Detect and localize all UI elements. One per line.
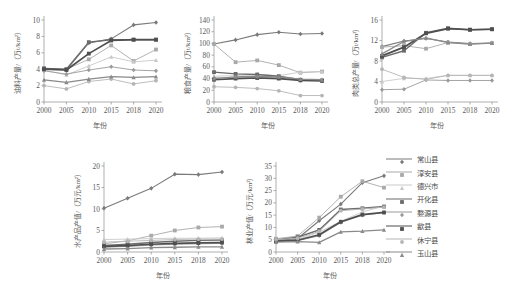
x-tick-label: 2010 [81, 106, 96, 115]
series-point [468, 28, 472, 32]
series-point [109, 39, 113, 43]
series-line [44, 57, 156, 75]
x-tick-label: 2020 [315, 106, 330, 115]
series-point [154, 38, 158, 42]
series-point [339, 220, 343, 224]
x-tick-label: 2015 [271, 106, 286, 115]
series-point [154, 20, 158, 25]
series-line [44, 40, 156, 70]
legend-item: 婺源县 [386, 206, 504, 219]
x-tick-label: 2015 [167, 256, 182, 265]
series-point [154, 69, 158, 74]
series-point [317, 216, 321, 220]
x-tick-label: 2018 [126, 106, 141, 115]
series-point [424, 78, 428, 82]
y-tick-label: 6 [36, 48, 40, 57]
x-tick-label: 2005 [290, 256, 305, 265]
y-tick-label: 16 [371, 16, 379, 25]
series-point [361, 213, 365, 217]
series-line [214, 87, 322, 96]
y-axis-label: 粮食产量/（万t/km²） [183, 28, 192, 94]
series-point [132, 82, 136, 86]
y-tick-label: 10 [93, 205, 101, 214]
series-line [104, 172, 222, 208]
y-tick-label: 4 [36, 65, 40, 74]
series-point [173, 172, 177, 177]
y-tick-label: 20 [203, 86, 211, 95]
series-point [154, 48, 158, 52]
series-point [277, 89, 281, 93]
legend-marker-icon [397, 224, 401, 228]
legend-item: 休宁县 [386, 232, 504, 245]
series-point [220, 170, 224, 175]
series-point [109, 44, 113, 48]
series-line [44, 45, 156, 69]
legend-marker-icon [397, 237, 401, 241]
y-tick-label: 120 [199, 27, 210, 36]
series-point [298, 32, 302, 37]
series-point [132, 68, 136, 73]
series-point [197, 226, 201, 230]
series-point [132, 23, 136, 28]
x-tick-label: 2010 [419, 106, 434, 115]
x-tick-label: 2020 [215, 256, 230, 265]
series-point [402, 87, 406, 92]
y-tick-label: 60 [203, 62, 211, 71]
series-point [197, 237, 201, 241]
x-axis-label: 年份 [430, 121, 444, 130]
x-tick-label: 2000 [207, 106, 222, 115]
chart-panel-grain-yield: 0204060801001201402000200520102015201820… [168, 6, 330, 138]
x-tick-label: 2015 [104, 106, 119, 115]
series-line [276, 206, 384, 241]
series-point [380, 45, 384, 49]
y-tick-label: 15 [265, 211, 273, 220]
x-tick-label: 2005 [397, 106, 412, 115]
series-line [276, 181, 384, 239]
series-point [173, 238, 177, 242]
series-point [65, 87, 69, 91]
x-tick-label: 2020 [485, 106, 500, 115]
series-line [44, 40, 156, 70]
series-point [196, 172, 200, 177]
y-tick-label: 8 [374, 57, 378, 66]
chart-panel-oil-crop-yield: 0246810200020052010201520182020年份油料产量/（万… [2, 6, 164, 138]
x-tick-label: 2000 [375, 106, 390, 115]
chart-panel-aquaculture-output-value: 05101520200020052010201520182020年份水产品产值/… [52, 150, 232, 286]
series-point [339, 209, 343, 213]
series-point [380, 67, 384, 71]
series-point [42, 84, 46, 88]
legend-marker-icon [397, 250, 401, 254]
series-point [154, 79, 158, 83]
legend-item-label: 常山县 [417, 153, 438, 164]
x-tick-label: 2000 [37, 106, 52, 115]
x-tick-label: 2005 [59, 106, 74, 115]
series-point [446, 27, 450, 31]
series-point [317, 233, 321, 237]
x-axis-label: 年份 [156, 271, 170, 280]
legend-item: 开化县 [386, 192, 504, 205]
y-tick-label: 25 [265, 186, 273, 195]
series-point [149, 238, 153, 242]
y-tick-label: 5 [96, 226, 100, 235]
legend-marker-icon [397, 210, 401, 214]
legend-item: 淳安县 [386, 165, 504, 178]
x-axis-label: 年份 [323, 271, 337, 280]
series-point [424, 47, 428, 51]
y-tick-label: 40 [203, 74, 211, 83]
series-point [102, 206, 106, 211]
series-point [109, 55, 113, 59]
legend-item: 玉山县 [386, 246, 504, 259]
series-point [402, 76, 406, 80]
legend-item: 常山县 [386, 152, 504, 165]
x-tick-label: 2010 [312, 256, 327, 265]
series-point [361, 207, 365, 211]
series-point [212, 70, 216, 74]
chart-panel-forestry-output-value: 05101520253035200020052010201520182020年份… [232, 150, 392, 286]
legend-item-label: 休宁县 [417, 234, 438, 245]
series-point [234, 60, 238, 64]
legend-marker-icon [397, 157, 401, 161]
series-point [87, 52, 91, 56]
plot-area: 05101520253035200020052010201520182020年份… [232, 150, 392, 286]
y-tick-label: 2 [36, 81, 40, 90]
x-axis-label: 年份 [93, 121, 107, 130]
